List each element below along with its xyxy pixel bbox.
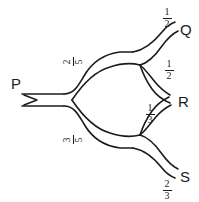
branch-label-lower-to-r: 1 3 — [143, 102, 157, 126]
node-label-s: S — [180, 169, 190, 184]
branch-label-p-upper-numerator: 2 — [62, 60, 73, 65]
branch-label-upper-to-r-numerator: 1 — [167, 59, 172, 70]
loop-lower-inner-wall — [72, 100, 140, 136]
branch-label-lower-to-r-numerator: 1 — [148, 103, 153, 114]
branch-label-p-lower-denominator: 5 — [74, 138, 85, 143]
branch-label-upper-to-q: 1 2 — [160, 6, 174, 30]
branch-label-lower-to-r-denominator: 3 — [148, 115, 153, 126]
branch-label-lower-to-s-numerator: 2 — [165, 179, 170, 190]
loop-upper-inner-wall — [72, 64, 140, 100]
branch-label-p-lower-numerator: 3 — [62, 138, 73, 143]
diagram-canvas: P Q R S 2 5 3 5 1 2 1 2 1 3 2 3 — [0, 0, 199, 202]
branch-label-p-lower: 3 5 — [61, 133, 85, 147]
branch-label-p-upper-denominator: 5 — [74, 60, 85, 65]
node-label-q: Q — [180, 22, 192, 37]
flow-arrow-icon — [24, 95, 37, 105]
node-label-p: P — [11, 76, 21, 91]
channel-network-graphic — [0, 0, 199, 202]
branch-label-upper-to-q-numerator: 1 — [165, 7, 170, 18]
node-label-r: R — [178, 94, 189, 109]
branch-label-upper-to-r: 1 2 — [162, 58, 176, 82]
branch-label-p-upper: 2 5 — [61, 55, 85, 69]
branch-label-upper-to-r-denominator: 2 — [167, 71, 172, 82]
branch-label-upper-to-q-denominator: 2 — [165, 19, 170, 30]
branch-label-lower-to-s: 2 3 — [160, 178, 174, 202]
branch-label-lower-to-s-denominator: 3 — [165, 191, 170, 202]
